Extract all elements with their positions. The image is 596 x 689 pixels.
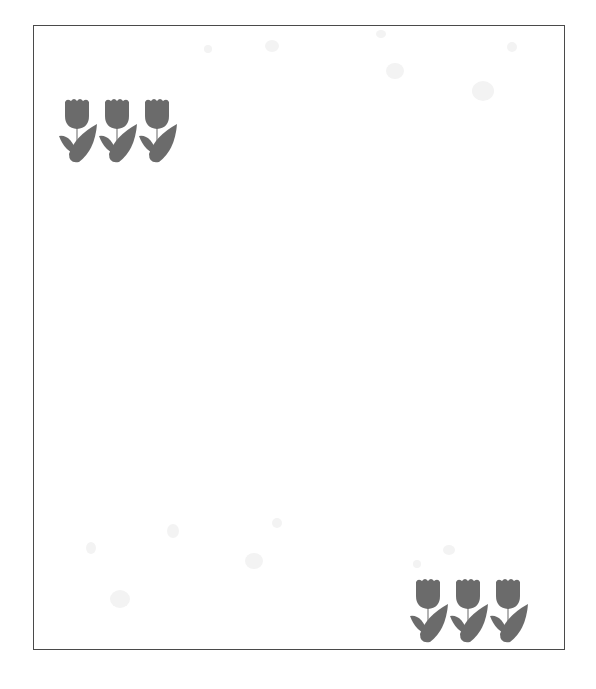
background-spot [386,63,404,79]
background-spot [110,590,130,608]
background-spot [86,542,96,554]
tulip-group-bottom-right [408,576,528,646]
background-spot [272,518,282,528]
tulip-icon [488,576,528,646]
background-spot [204,45,212,53]
background-spot [413,560,421,568]
background-spot [507,42,517,52]
background-spot [472,81,494,101]
tulip-icon [97,96,137,166]
tulip-icon [408,576,448,646]
tulip-icon [137,96,177,166]
background-spot [167,524,179,538]
tulip-group-top-left [57,96,177,166]
background-spot [443,545,455,555]
stationery-page [0,0,596,689]
tulip-icon [448,576,488,646]
tulip-icon [57,96,97,166]
background-spot [245,553,263,569]
background-spot [265,40,279,52]
background-spot [376,30,386,38]
